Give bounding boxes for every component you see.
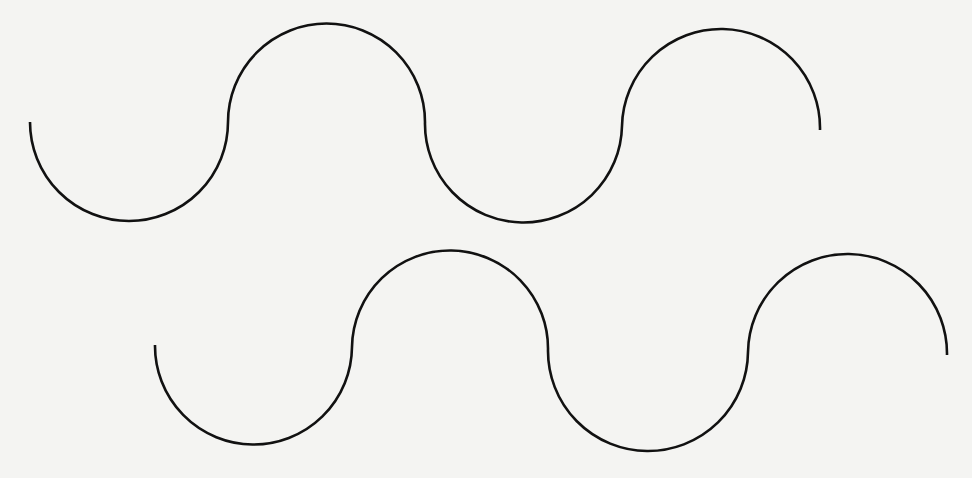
top-wave [30,24,820,223]
bottom-wave [155,251,947,451]
diagram-canvas [0,0,972,478]
wave-diagram [0,0,972,478]
